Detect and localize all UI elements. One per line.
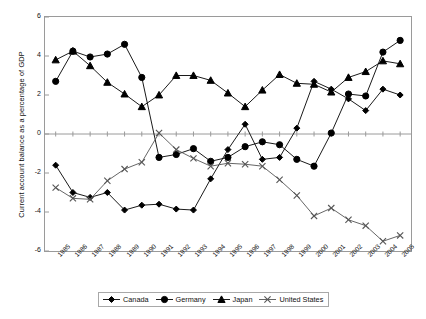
y-axis-tick-labels: 6420-2-4-6: [20, 16, 41, 252]
y-axis-tick-label: -2: [23, 168, 41, 175]
triangle-marker-icon: [213, 295, 230, 304]
y-axis-tick-label: 6: [23, 12, 41, 19]
cross-marker-icon: [259, 295, 276, 304]
chart-legend: CanadaGermanyJapanUnited States: [98, 292, 329, 307]
legend-item[interactable]: United States: [259, 295, 323, 304]
circle-marker-icon: [156, 295, 173, 304]
legend-label: United States: [279, 295, 323, 304]
y-axis-tick-label: -6: [23, 246, 41, 253]
legend-label: Germany: [176, 295, 206, 304]
legend-label: Canada: [123, 295, 149, 304]
legend-item[interactable]: Japan: [213, 295, 253, 304]
legend-label: Japan: [233, 295, 253, 304]
y-axis-tick-label: 0: [23, 129, 41, 136]
x-axis-tick-labels: 1985198619871988198919901991199219931994…: [44, 253, 412, 293]
legend-item[interactable]: Canada: [103, 295, 149, 304]
plot-area: [44, 16, 412, 252]
diamond-marker-icon: [103, 295, 120, 304]
y-axis-tick-label: 4: [23, 51, 41, 58]
y-axis-tick-label: -4: [23, 207, 41, 214]
legend-item[interactable]: Germany: [156, 295, 206, 304]
chart-svg: [45, 17, 411, 251]
y-axis-tick-label: 2: [23, 90, 41, 97]
chart-container: Current account balance as a percentage …: [0, 0, 426, 319]
